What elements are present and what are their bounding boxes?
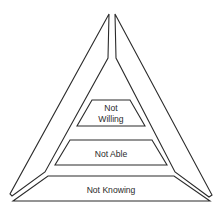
- label-not-willing-line1: Not: [104, 103, 118, 113]
- label-not-able: Not Able: [95, 149, 128, 159]
- pyramid-diagram: Not Willing Not Able Not Knowing: [0, 0, 224, 215]
- label-not-willing-line2: Willing: [98, 114, 124, 124]
- label-not-knowing: Not Knowing: [87, 185, 136, 195]
